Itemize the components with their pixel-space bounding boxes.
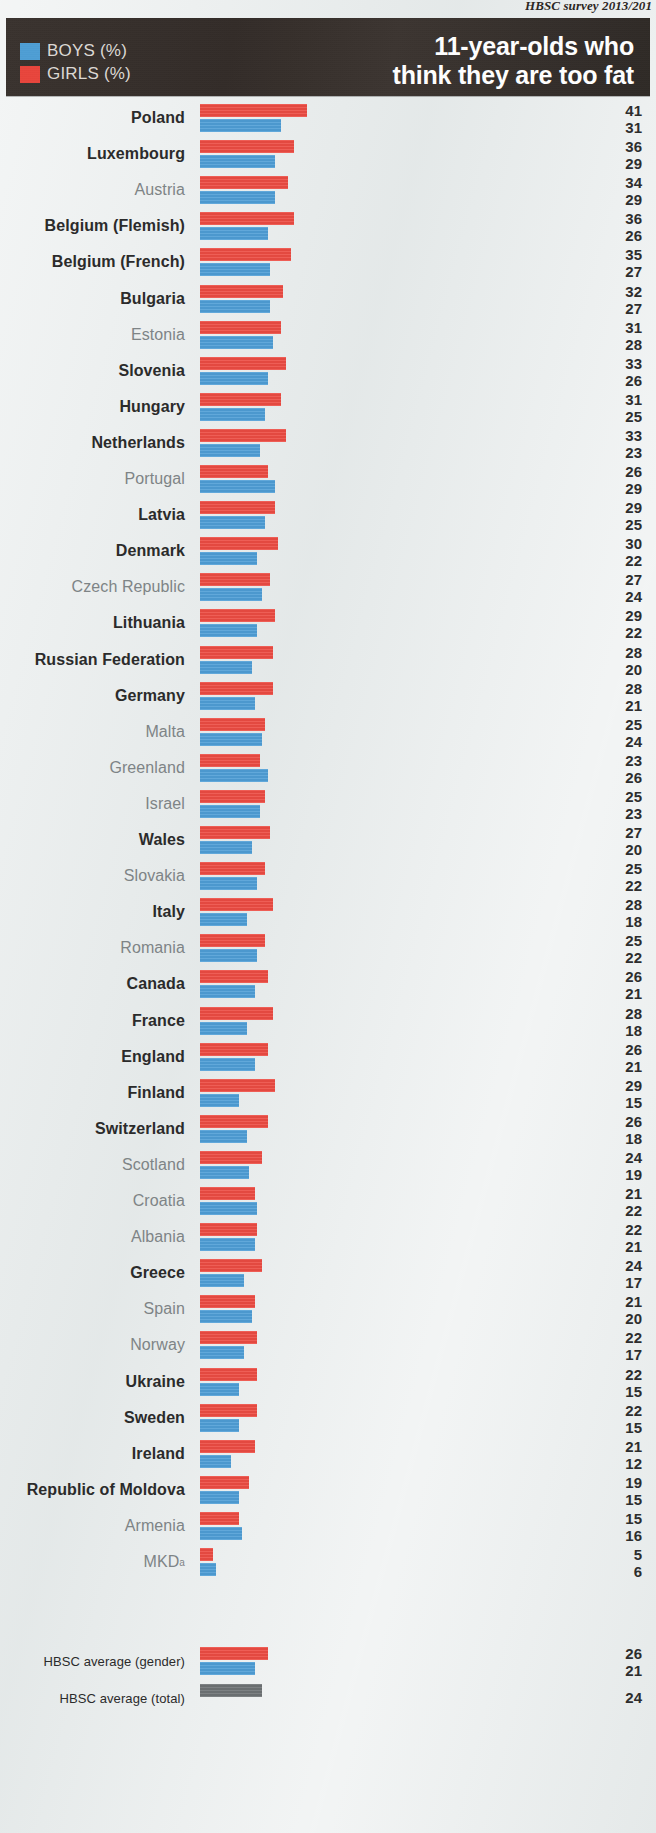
value-girls: 19 (582, 1472, 642, 1491)
bar-boys (200, 624, 257, 637)
bar-girls (200, 934, 265, 947)
bar-girls (200, 754, 260, 767)
bar-girls (200, 573, 270, 586)
value-girls: 26 (582, 966, 642, 985)
country-label: Poland (0, 100, 185, 136)
bar-boys (200, 733, 262, 746)
country-row: Norway2217 (0, 1327, 656, 1363)
bar-boys (200, 1310, 252, 1323)
row-values: 2326 (582, 750, 642, 786)
country-label: Wales (0, 822, 185, 858)
row-values: 4131 (582, 100, 642, 136)
footnote-marker: a (179, 1557, 185, 1568)
country-label: Malta (0, 714, 185, 750)
value-boys: 15 (582, 1383, 642, 1400)
country-label: Sweden (0, 1400, 185, 1436)
country-row: Slovenia3326 (0, 353, 656, 389)
bar-boys (200, 155, 275, 168)
value-girls: 27 (582, 569, 642, 588)
row-values: 2122 (582, 1183, 642, 1219)
country-label: Switzerland (0, 1111, 185, 1147)
bar-boys (200, 913, 247, 926)
bar-boys (200, 805, 260, 818)
bar-girls (200, 1151, 262, 1164)
value-boys: 18 (582, 1130, 642, 1147)
bar-boys (200, 263, 270, 276)
value-boys: 22 (582, 552, 642, 569)
bar-girls (200, 285, 283, 298)
value-boys: 21 (582, 1058, 642, 1075)
country-label: Portugal (0, 461, 185, 497)
country-row: Spain2120 (0, 1291, 656, 1327)
value-boys: 23 (582, 444, 642, 461)
value-total: 24 (582, 1680, 642, 1716)
value-girls: 26 (582, 1643, 642, 1662)
value-girls: 28 (582, 642, 642, 661)
legend-item-boys: BOYS (%) (20, 40, 131, 62)
value-girls: 29 (582, 1075, 642, 1094)
value-boys: 25 (582, 516, 642, 533)
page-title-line1: 11-year-olds who (393, 32, 634, 61)
country-label: Hungary (0, 389, 185, 425)
average-total-label: HBSC average (total) (0, 1680, 185, 1716)
value-boys: 15 (582, 1491, 642, 1508)
value-boys: 27 (582, 263, 642, 280)
country-row: Lithuania2922 (0, 605, 656, 641)
country-row: Republic of Moldova1915 (0, 1472, 656, 1508)
country-label: France (0, 1003, 185, 1039)
value-girls: 24 (582, 1147, 642, 1166)
bar-boys (200, 300, 270, 313)
bar-boys (200, 480, 275, 493)
bar-girls (200, 1259, 262, 1272)
bar-boys (200, 444, 260, 457)
value-girls: 27 (582, 822, 642, 841)
row-values: 2217 (582, 1327, 642, 1363)
row-values: 2818 (582, 1003, 642, 1039)
country-row: Italy2818 (0, 894, 656, 930)
country-label: Republic of Moldova (0, 1472, 185, 1508)
value-boys: 6 (582, 1563, 642, 1580)
row-values: 2629 (582, 461, 642, 497)
row-values: 1915 (582, 1472, 642, 1508)
row-values: 3626 (582, 208, 642, 244)
bar-boys (200, 1238, 255, 1251)
value-boys: 18 (582, 1022, 642, 1039)
bar-boys (200, 1274, 244, 1287)
bar-chart: Poland4131Luxembourg3629Austria3429Belgi… (0, 96, 656, 1833)
bar-girls (200, 176, 288, 189)
country-label: Czech Republic (0, 569, 185, 605)
value-boys: 21 (582, 985, 642, 1002)
value-girls: 33 (582, 425, 642, 444)
bar-boys (200, 1563, 216, 1576)
bar-girls (200, 646, 273, 659)
legend-swatch-girls-icon (20, 66, 40, 83)
country-row: Latvia2925 (0, 497, 656, 533)
value-boys: 22 (582, 624, 642, 641)
value-boys: 29 (582, 480, 642, 497)
country-label: Russian Federation (0, 642, 185, 678)
bar-girls (200, 393, 281, 406)
value-boys: 23 (582, 805, 642, 822)
country-label: Finland (0, 1075, 185, 1111)
bar-boys (200, 1130, 247, 1143)
value-boys: 29 (582, 155, 642, 172)
bar-boys (200, 985, 255, 998)
country-row: Sweden2215 (0, 1400, 656, 1436)
country-label: Bulgaria (0, 281, 185, 317)
value-girls: 31 (582, 389, 642, 408)
value-boys: 22 (582, 949, 642, 966)
row-values: 2618 (582, 1111, 642, 1147)
value-girls: 21 (582, 1183, 642, 1202)
row-values: 2820 (582, 642, 642, 678)
value-girls: 28 (582, 1003, 642, 1022)
country-row: Ireland2112 (0, 1436, 656, 1472)
bar-boys (200, 1058, 255, 1071)
row-values: 24 (582, 1680, 642, 1716)
row-values: 3429 (582, 172, 642, 208)
value-girls: 22 (582, 1400, 642, 1419)
row-values: 2720 (582, 822, 642, 858)
bar-girls (200, 682, 273, 695)
page-title-line2: think they are too fat (393, 61, 634, 90)
value-girls: 35 (582, 244, 642, 263)
row-values: 2221 (582, 1219, 642, 1255)
